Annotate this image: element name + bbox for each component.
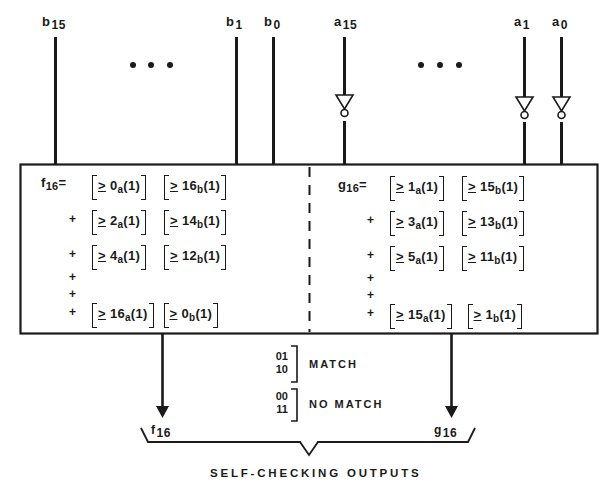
input-label-b15: b15	[42, 14, 66, 32]
plus-operator: +	[69, 305, 76, 319]
equation-f16-lhs: f16=	[41, 175, 66, 192]
output-brace	[141, 428, 475, 455]
threshold-term-b: >12b(1)	[164, 247, 226, 266]
threshold-term-b: >14b(1)	[164, 212, 226, 231]
threshold-term-a: >1a(1)	[390, 178, 444, 197]
plus-operator: +	[367, 213, 374, 227]
threshold-term-b: >16b(1)	[164, 177, 226, 196]
threshold-term-a: >5a(1)	[390, 248, 444, 267]
equation-g16-term-3: >15a(1) >1b(1)	[390, 306, 522, 326]
match-codes: 01 10	[268, 350, 288, 376]
inverter-icon-a15	[336, 95, 353, 117]
nomatch-label: NO MATCH	[309, 398, 383, 410]
equation-g16-term-1: >3a(1) >13b(1)	[390, 213, 524, 233]
threshold-term-a: >3a(1)	[390, 213, 444, 232]
output-label-f16: f16	[151, 423, 171, 440]
input-label-b0: b0	[264, 14, 281, 32]
threshold-term-a: >15a(1)	[390, 306, 452, 325]
nomatch-codes: 00 11	[268, 390, 288, 416]
input-label-b1: b1	[226, 14, 243, 32]
threshold-term-b: >15b(1)	[462, 178, 524, 197]
inverter-icon-a1	[516, 97, 533, 119]
bracket-match	[291, 346, 297, 382]
threshold-term-a: >0a(1)	[92, 177, 146, 196]
equation-g16-term-2: >5a(1) >11b(1)	[390, 248, 524, 268]
output-label-g16: g16	[434, 423, 457, 440]
ellipsis-icon-a	[418, 62, 462, 68]
plus-operator: +	[367, 248, 374, 262]
equation-f16-term-1: >2a(1) >14b(1)	[92, 212, 226, 232]
input-label-a1: a1	[514, 14, 530, 32]
plus-continuation: +	[367, 271, 374, 285]
threshold-term-a: >2a(1)	[92, 212, 146, 231]
ellipsis-icon-b	[130, 62, 173, 68]
arrow-down-icon-f16	[156, 406, 169, 418]
plus-operator: +	[69, 212, 76, 226]
threshold-term-a: >4a(1)	[92, 247, 146, 266]
plus-continuation: +	[69, 287, 76, 301]
arrow-down-icon-g16	[445, 406, 458, 418]
threshold-term-b: >11b(1)	[462, 248, 523, 267]
bracket-nomatch	[291, 389, 297, 421]
equation-g16-term-0: >1a(1) >15b(1)	[390, 178, 524, 198]
plus-continuation: +	[69, 270, 76, 284]
caption-self-checking-outputs: SELF-CHECKING OUTPUTS	[210, 467, 422, 479]
plus-operator: +	[367, 306, 374, 320]
plus-continuation: +	[367, 288, 374, 302]
input-label-a15: a15	[334, 14, 357, 32]
plus-operator: +	[69, 247, 76, 261]
equation-f16-term-0: >0a(1) >16b(1)	[92, 177, 226, 197]
equation-g16-lhs: g16=	[338, 177, 367, 194]
match-label: MATCH	[309, 358, 358, 370]
threshold-term-a: >16a(1)	[92, 305, 154, 324]
equation-f16-term-3: >16a(1) >0b(1)	[92, 305, 218, 325]
input-label-a0: a0	[552, 14, 568, 32]
inverter-icon-a0	[553, 97, 570, 119]
threshold-term-b: >1b(1)	[468, 306, 523, 325]
threshold-term-b: >13b(1)	[462, 213, 524, 232]
equation-f16-term-2: >4a(1) >12b(1)	[92, 247, 226, 267]
threshold-term-b: >0b(1)	[164, 305, 219, 324]
